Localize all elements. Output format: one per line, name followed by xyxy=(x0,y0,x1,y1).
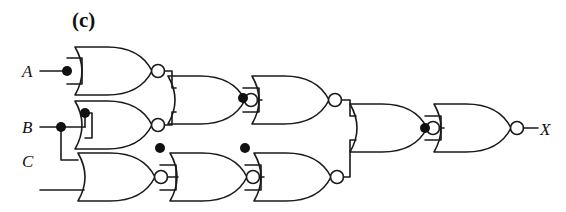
junction-a-tie xyxy=(62,66,72,76)
figure-canvas: (c) A B C X xyxy=(0,0,566,212)
nor-gate-6[interactable] xyxy=(252,76,342,124)
nor-gate-7[interactable] xyxy=(254,153,344,201)
nor-gate-1[interactable] xyxy=(75,47,165,95)
junction-dot-group xyxy=(56,66,430,153)
wire-b-to-gate3 xyxy=(61,127,78,160)
junction-b-fan xyxy=(56,122,66,132)
nor-gate-2[interactable] xyxy=(75,101,165,149)
nor-gate-3[interactable] xyxy=(78,153,168,201)
junction-n5-tie xyxy=(240,143,250,153)
junction-b-tie xyxy=(80,108,90,118)
nor-gate-5[interactable] xyxy=(170,153,260,201)
circuit-schematic xyxy=(0,0,566,212)
nor-gate-9[interactable] xyxy=(434,104,524,152)
junction-n8-tie xyxy=(420,123,430,133)
junction-n3-tie xyxy=(155,143,165,153)
junction-n4-tie xyxy=(238,93,248,103)
